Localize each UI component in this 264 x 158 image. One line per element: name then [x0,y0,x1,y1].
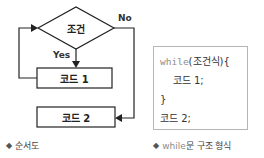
code-line-1-rest: (조건식){ [189,56,230,67]
caption-while-keyword: while [162,141,186,151]
code-line-3: } [160,90,247,109]
flowchart-caption: ◆ 순서도 [6,139,39,152]
code-line-1: while(조건식){ [160,52,247,71]
loop-arrow-head [31,24,38,32]
code-line-4: 코드 2; [160,109,247,128]
code-line-2: 코드 1; [160,71,247,90]
code-caption: ◆ while문 구조 형식 [153,139,232,152]
yes-arrow-head [72,61,80,68]
loop-back-line [19,28,37,78]
condition-label: 조건 [56,20,96,36]
code1-label: 코드 1 [37,68,112,88]
flowchart-caption-text: 순서도 [15,139,39,152]
diamond-bullet-icon: ◆ [153,141,159,150]
code-caption-text: 문 구조 형식 [186,141,232,151]
yes-label: Yes [53,50,70,60]
diamond-bullet-icon: ◆ [6,141,12,150]
no-label: No [118,13,132,23]
no-path-line [114,28,134,118]
code2-label: 코드 2 [37,107,115,127]
code-panel: while(조건식){ 코드 1; } 코드 2; [153,46,248,130]
no-arrow-head [115,114,122,122]
while-keyword: while [160,56,189,67]
